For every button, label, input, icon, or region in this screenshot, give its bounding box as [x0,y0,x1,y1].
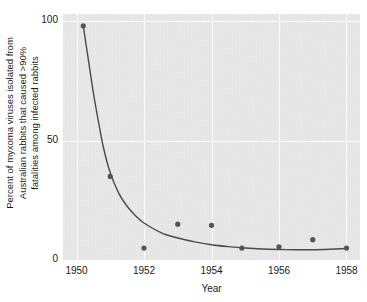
data-point-5 [239,245,244,250]
x-tick-label-1956: 1956 [249,265,309,276]
y-tick-label-0: 0 [0,253,63,264]
data-point-4 [209,223,214,228]
data-point-7 [310,237,315,242]
x-tick-label-1950: 1950 [47,265,107,276]
chart-figure: 050100 19501952195419561958 Year Percent… [0,0,367,302]
x-axis-title: Year [63,283,360,294]
data-point-2 [141,245,146,250]
x-tick-label-1954: 1954 [182,265,242,276]
data-point-8 [344,245,349,250]
data-point-1 [108,174,113,179]
y-axis-title-line-2: Australian rabbits that caused >90% [17,47,30,199]
plot-area [63,14,360,260]
y-axis-title-line-1: Percent of myxoma viruses isolated from [4,37,17,209]
y-axis-title-line-3: fatalities among infected rabbits [29,56,42,190]
data-point-3 [175,222,180,227]
fitted-decay-curve [83,26,346,250]
x-tick-label-1958: 1958 [317,265,367,276]
data-layer [63,14,360,260]
y-axis-title: Percent of myxoma viruses isolated from … [3,0,43,246]
data-point-0 [81,23,86,28]
x-tick-label-1952: 1952 [114,265,174,276]
data-point-6 [276,244,281,249]
scatter-markers [81,23,349,250]
